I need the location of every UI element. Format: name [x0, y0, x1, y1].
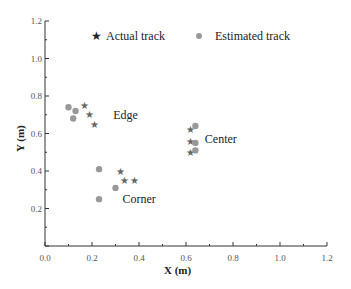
axes: 0.00.20.40.60.81.01.20.20.40.60.81.01.2 [31, 16, 333, 263]
estimated-point [72, 108, 78, 114]
actual-point-star-icon: ★ [120, 175, 129, 186]
x-tick-label: 0.0 [39, 253, 51, 263]
actual-point-star-icon: ★ [130, 175, 139, 186]
y-tick-label: 1.0 [31, 54, 43, 64]
cluster-label-center: Center [205, 132, 237, 146]
x-tick-label: 1.0 [274, 253, 286, 263]
legend-actual-label: Actual track [106, 29, 165, 43]
legend-star-icon: ★ [91, 29, 102, 43]
x-tick-label: 0.6 [180, 253, 192, 263]
estimated-point [70, 115, 76, 121]
y-tick-label: 0.2 [31, 204, 42, 214]
estimated-point [192, 140, 198, 146]
legend: ★ Actual track Estimated track [91, 29, 290, 43]
x-tick-label: 0.4 [133, 253, 145, 263]
y-tick-label: 0.4 [31, 166, 43, 176]
y-tick-label: 0.6 [31, 129, 43, 139]
legend-circle-icon [196, 33, 202, 39]
x-tick-label: 0.2 [86, 253, 97, 263]
estimated-point [96, 166, 102, 172]
cluster-labels: EdgeCenterCorner [113, 108, 237, 206]
x-tick-label: 0.8 [227, 253, 239, 263]
estimated-point [112, 185, 118, 191]
estimated-point [96, 196, 102, 202]
y-tick-label: 0.8 [31, 91, 43, 101]
estimated-point [192, 147, 198, 153]
estimated-point [192, 123, 198, 129]
actual-point-star-icon: ★ [90, 119, 99, 130]
x-tick-label: 1.2 [321, 253, 332, 263]
cluster-label-corner: Corner [123, 192, 156, 206]
y-axis-label: Y (m) [14, 125, 27, 152]
scatter-chart: 0.00.20.40.60.81.01.20.20.40.60.81.01.2 … [0, 0, 351, 289]
y-tick-label: 1.2 [31, 16, 42, 26]
estimated-point [65, 104, 71, 110]
cluster-label-edge: Edge [113, 108, 138, 122]
x-axis-label: X (m) [164, 264, 192, 277]
legend-estimated-label: Estimated track [215, 29, 290, 43]
